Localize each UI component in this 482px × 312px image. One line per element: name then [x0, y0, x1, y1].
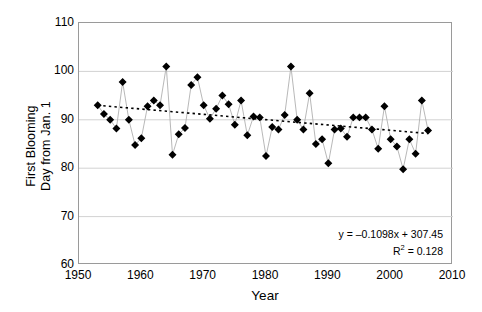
data-point	[375, 146, 381, 152]
y-tick-label-70: 70	[44, 210, 74, 222]
y-tick-label-90: 90	[44, 113, 74, 125]
data-point	[406, 136, 412, 142]
regression-annotation: y = –0.1098x + 307.45 R2 = 0.128	[338, 228, 443, 258]
x-axis-title: Year	[78, 288, 452, 304]
data-point	[282, 112, 288, 118]
data-point	[113, 126, 119, 132]
y-tick-label-110: 110	[44, 16, 74, 28]
data-point	[226, 101, 232, 107]
x-tick-label-1980: 1980	[243, 268, 287, 282]
data-point	[269, 124, 275, 130]
r-squared-text: R2 = 0.128	[338, 241, 443, 258]
data-point	[325, 160, 331, 166]
r-squared-value: = 0.128	[405, 244, 443, 256]
data-point	[263, 153, 269, 159]
data-point	[170, 152, 176, 158]
data-point	[300, 126, 306, 132]
data-point	[381, 103, 387, 109]
chart-figure: First Blooming Day from Jan. 1 607080901…	[0, 0, 482, 312]
data-point	[126, 117, 132, 123]
data-point	[425, 127, 431, 133]
data-point	[213, 106, 219, 112]
x-tick-label-2000: 2000	[368, 268, 412, 282]
y-tick-label-80: 80	[44, 161, 74, 173]
data-point	[244, 132, 250, 138]
data-point	[207, 116, 213, 122]
data-point	[332, 126, 338, 132]
data-point	[288, 64, 294, 70]
data-point	[95, 102, 101, 108]
data-point	[219, 93, 225, 99]
y-axis-tick-labels: 60708090100110	[40, 0, 74, 312]
y-tick-label-100: 100	[44, 64, 74, 76]
data-point	[232, 122, 238, 128]
x-tick-label-2010: 2010	[430, 268, 474, 282]
x-tick-label-1960: 1960	[118, 268, 162, 282]
regression-equation: y = –0.1098x + 307.45	[338, 228, 443, 241]
data-point	[163, 64, 169, 70]
x-tick-label-1990: 1990	[305, 268, 349, 282]
data-point	[369, 126, 375, 132]
data-point	[307, 90, 313, 96]
r-squared-prefix: R	[393, 244, 401, 256]
data-point	[419, 97, 425, 103]
plot-area: y = –0.1098x + 307.45 R2 = 0.128	[78, 22, 452, 264]
data-point	[413, 151, 419, 157]
data-point	[201, 102, 207, 108]
x-tick-label-1970: 1970	[181, 268, 225, 282]
x-axis-tick-labels: 1950196019701980199020002010	[0, 268, 482, 288]
data-point	[238, 97, 244, 103]
y-axis-title-line-1: First Blooming	[24, 105, 39, 186]
data-point	[120, 79, 126, 85]
data-point	[275, 126, 281, 132]
x-tick-label-1950: 1950	[56, 268, 100, 282]
data-point	[400, 166, 406, 172]
